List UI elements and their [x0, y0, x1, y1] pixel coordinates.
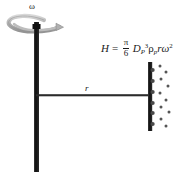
equation-omega-term: ω2 — [161, 42, 172, 54]
physics-diagram: ω r H = π 6 DP3 ρp r ω2 — [0, 0, 195, 176]
diameter-symbol: D — [133, 42, 141, 54]
equation-lhs: H — [101, 42, 109, 54]
radius-arm — [36, 94, 150, 96]
angular-velocity-label: ω — [29, 2, 35, 11]
equation-fraction: π 6 — [123, 38, 130, 59]
radius-label: r — [85, 84, 89, 93]
equation-equals-sign: = — [112, 42, 118, 54]
mast-hub — [33, 24, 41, 29]
target-plate — [148, 62, 152, 131]
fraction-numerator: π — [123, 38, 130, 47]
impact-energy-equation: H = π 6 DP3 ρp r ω2 — [101, 38, 173, 59]
equation-density-term: ρp — [148, 42, 157, 54]
fraction-denominator: 6 — [123, 49, 130, 58]
omega-exponent: 2 — [169, 43, 172, 50]
diagram-canvas — [0, 0, 195, 176]
rotating-mast — [34, 22, 39, 172]
equation-diameter-term: DP3 — [133, 42, 149, 54]
scattered-particles — [159, 65, 171, 128]
